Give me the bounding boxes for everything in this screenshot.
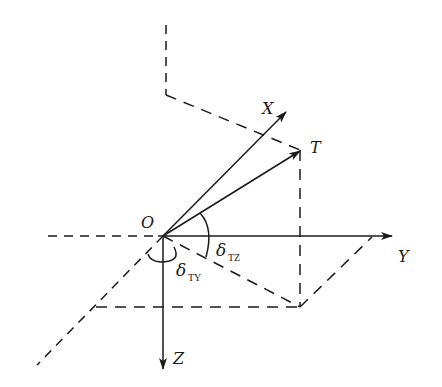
angle-tz-subscript: TZ (228, 252, 240, 263)
angle-tz-symbol: δ (216, 240, 226, 260)
x-axis-label: X (260, 99, 274, 118)
angle-ty-symbol: δ (176, 260, 186, 280)
origin-label: O (141, 213, 154, 232)
z-axis-label: Z (172, 349, 185, 368)
x-axis (163, 112, 286, 236)
y-axis-label: Y (398, 247, 410, 266)
coordinate-diagram: O X T Y Z δ TZ δ TY (0, 0, 442, 387)
angle-tz-arc (200, 213, 209, 257)
xz-plane-projection-dashed (166, 95, 300, 150)
target-vector (163, 151, 300, 236)
angle-ty-subscript: TY (188, 272, 201, 283)
y-parallel-projection-dashed (300, 237, 372, 307)
target-label: T (310, 138, 322, 157)
x-axis-negative-dashed (37, 236, 163, 365)
angle-ty-arc (148, 247, 176, 262)
